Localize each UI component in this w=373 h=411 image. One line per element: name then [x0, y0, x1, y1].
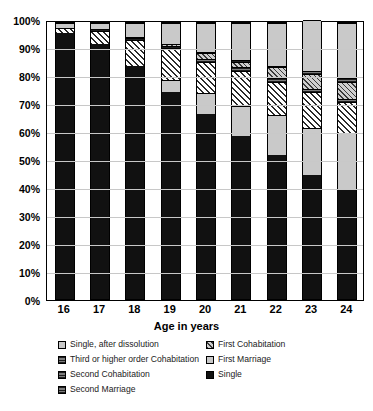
y-axis-tick: 20% — [0, 239, 40, 251]
bar-segment — [162, 23, 180, 44]
y-axis-tick: 0% — [0, 295, 40, 307]
y-axis-tick: 100% — [0, 15, 40, 27]
gridline — [47, 77, 363, 78]
stacked-bar-chart: 100%90%80%70%60%50%40%30%20%10%0% 161718… — [0, 0, 373, 411]
bar-segment — [126, 37, 144, 38]
bar-segment — [162, 46, 180, 48]
legend-item[interactable]: Second Cohabitation — [58, 368, 150, 381]
legend-swatch-icon — [206, 356, 214, 364]
y-axis-tick: 10% — [0, 267, 40, 279]
x-axis-tick: 24 — [329, 303, 363, 315]
bar-segment — [91, 23, 109, 29]
bar-segment — [197, 23, 215, 52]
x-axis-tick: 16 — [47, 303, 81, 315]
bar-segment — [232, 62, 250, 68]
legend-item[interactable]: Third or higher order Cohabitation — [58, 353, 199, 366]
legend-item[interactable]: Single, after dissolution — [58, 338, 159, 351]
legend-swatch-icon — [58, 341, 66, 349]
legend-swatch-icon — [58, 371, 66, 379]
bar-segment — [126, 66, 144, 299]
bar-segment — [303, 175, 321, 299]
x-axis-title: Age in years — [0, 320, 373, 332]
bar-segment — [303, 71, 321, 74]
bar-segment — [232, 23, 250, 60]
y-axis-tick: 40% — [0, 183, 40, 195]
bar-segment — [126, 38, 144, 40]
bar-segment — [338, 78, 356, 82]
y-axis-tick: 50% — [0, 155, 40, 167]
plot-wrapper: 100%90%80%70%60%50%40%30%20%10%0% — [0, 0, 373, 300]
bar-segment — [268, 66, 286, 67]
bar-segment — [303, 128, 321, 175]
y-axis-tick: 30% — [0, 211, 40, 223]
gridline — [47, 273, 363, 274]
bar-segment — [268, 155, 286, 299]
bar-segment — [197, 59, 215, 62]
y-axis-tick: 60% — [0, 127, 40, 139]
bar-segment — [338, 102, 356, 134]
bar-segment — [56, 23, 74, 28]
bar-segment — [162, 92, 180, 299]
x-axis-tick: 20 — [188, 303, 222, 315]
bar-segment — [197, 53, 215, 59]
gridline — [47, 217, 363, 218]
legend-label: Single, after dissolution — [70, 340, 159, 349]
bar-segment — [268, 23, 286, 66]
y-axis-tick: 90% — [0, 43, 40, 55]
y-axis-tick: 70% — [0, 99, 40, 111]
legend-swatch-icon — [58, 356, 66, 364]
x-axis-tick: 23 — [294, 303, 328, 315]
legend-swatch-icon — [58, 386, 66, 394]
bar-segment — [338, 23, 356, 78]
legend-item[interactable]: Second Marriage — [58, 383, 135, 396]
bar-segment — [232, 60, 250, 61]
bar-segment — [91, 29, 109, 31]
bar-segment — [338, 99, 356, 102]
bar-segment — [338, 82, 356, 99]
legend-swatch-icon — [206, 341, 214, 349]
x-axis-labels: 161718192021222324 — [46, 303, 364, 319]
bar-segment — [126, 40, 144, 66]
legend-label: First Marriage — [218, 355, 271, 364]
legend-label: Second Marriage — [70, 385, 135, 394]
gridline — [47, 49, 363, 50]
legend-item[interactable]: First Marriage — [206, 353, 271, 366]
legend-label: Second Cohabitation — [70, 370, 150, 379]
legend-item[interactable]: Single — [206, 368, 242, 381]
gridline — [47, 133, 363, 134]
bar-segment — [56, 28, 74, 33]
x-axis-tick: 21 — [223, 303, 257, 315]
legend-item[interactable]: First Cohabitation — [206, 338, 285, 351]
bar-segment — [303, 74, 321, 89]
legend-label: First Cohabitation — [218, 340, 285, 349]
gridline — [47, 161, 363, 162]
y-axis-labels: 100%90%80%70%60%50%40%30%20%10%0% — [0, 21, 42, 301]
bar-segment — [197, 52, 215, 53]
bar-segment — [91, 31, 109, 43]
x-axis-tick: 22 — [259, 303, 293, 315]
bar-segment — [268, 78, 286, 82]
legend-swatch-icon — [206, 371, 214, 379]
chart-legend: Single, after dissolutionFirst Cohabitat… — [58, 338, 358, 404]
bar-segment — [232, 67, 250, 71]
legend-label: Third or higher order Cohabitation — [70, 355, 199, 364]
gridline — [47, 189, 363, 190]
gridline — [47, 245, 363, 246]
bar-segment — [303, 92, 321, 128]
x-axis-tick: 17 — [82, 303, 116, 315]
bar-segment — [197, 93, 215, 114]
bar-segment — [56, 33, 74, 299]
bar-segment — [268, 82, 286, 115]
bar-segment — [126, 23, 144, 37]
y-axis-tick: 80% — [0, 71, 40, 83]
bar-segment — [232, 106, 250, 136]
gridline — [47, 105, 363, 106]
bar-segment — [268, 115, 286, 155]
bar-segment — [91, 44, 109, 299]
x-axis-tick: 18 — [117, 303, 151, 315]
bar-segment — [197, 114, 215, 299]
bar-segment — [303, 89, 321, 92]
x-axis-tick: 19 — [153, 303, 187, 315]
bar-segment — [162, 44, 180, 45]
legend-label: Single — [218, 370, 242, 379]
